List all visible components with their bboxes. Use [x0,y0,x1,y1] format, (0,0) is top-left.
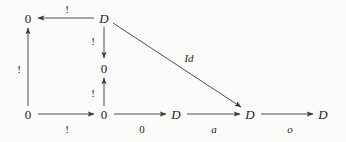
edge-label-edge-topmid-down-to-centermid: ! [91,36,95,47]
node-n-bottom-d2: D [245,108,254,121]
node-n-bottom-d3: D [318,108,327,121]
edge-label-edge-top-d-to-zero: ! [65,4,69,15]
edge-lines-group [28,18,313,114]
node-n-top-mid: D [99,12,108,25]
node-n-center-mid: 0 [101,62,108,75]
node-n-top-left: 0 [25,12,32,25]
edge-label-edge-d2-to-d3: o [287,124,293,135]
edge-label-edge-bottommid-up-to-centermid: ! [91,88,95,99]
edge-label-edge-d1-to-d2: a [211,124,217,135]
edge-label-edge-bottommid-to-d1: 0 [139,124,145,135]
edge-label-edge-bottomleft-up-to-topleft: ! [17,64,21,75]
edge-label-edge-bottomleft-to-bottommid: ! [65,124,69,135]
node-n-bottom-d1: D [171,108,180,121]
edge-label-edge-topmid-diagonal-to-d2: Id [184,53,193,64]
node-n-bottom-left: 0 [25,108,32,121]
node-n-bottom-mid: 0 [101,108,108,121]
commutative-diagram: 0D000DDD !!!!Id!0ao [0,0,346,142]
arrow-edge-topmid-diagonal-to-d2 [113,23,241,107]
